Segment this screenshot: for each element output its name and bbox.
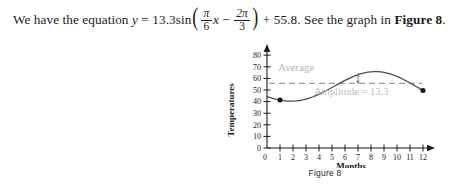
- y-tick-label: 20: [253, 121, 261, 130]
- y-tick-label: 30: [253, 109, 261, 118]
- x-tick-label: 4: [317, 153, 321, 162]
- data-point-marker: [421, 88, 426, 93]
- fraction-2pi-over-3: 2π3: [234, 8, 250, 33]
- y-tick-label: 0: [257, 144, 261, 153]
- equals-sign: =: [141, 12, 149, 27]
- y-tick-label: 80: [253, 51, 261, 60]
- sentence-period: .: [442, 12, 445, 27]
- fraction-numerator: 2π: [234, 8, 250, 20]
- sentence-tail: See the graph in: [304, 12, 391, 27]
- y-axis-arrowhead: [264, 44, 271, 52]
- fraction-pi-over-6: π6: [201, 8, 212, 33]
- x-tick-label: 9: [382, 153, 386, 162]
- x-tick-label: 8: [369, 153, 373, 162]
- x-tick-label: 12: [419, 153, 427, 162]
- x-tick-label: 1: [278, 153, 282, 162]
- fraction-numerator: π: [201, 8, 211, 20]
- vertical-shift-constant: 55.8.: [274, 12, 301, 27]
- sentence-lead: We have the equation: [13, 12, 129, 27]
- y-tick-label: 40: [253, 97, 261, 106]
- y-tick-label: 10: [253, 132, 261, 141]
- x-tick-label: 3: [304, 153, 308, 162]
- amplitude-coefficient: 13.3sin: [152, 12, 191, 27]
- fraction-denominator: 6: [201, 21, 211, 33]
- fraction-denominator: 3: [237, 21, 247, 33]
- x-tick-label: 2: [291, 153, 295, 162]
- figure-block: Temperatures 0 10 20 30 40 50 60: [225, 40, 455, 190]
- x-tick-label: 11: [406, 153, 414, 162]
- data-point-marker: [278, 98, 283, 103]
- figure-reference: Figure 8: [394, 12, 442, 27]
- minus-sign: −: [222, 12, 230, 27]
- figure-caption: Figure 8: [225, 168, 425, 178]
- x-tick-label: 5: [330, 153, 334, 162]
- x-axis-arrowhead: [427, 145, 435, 152]
- y-tick-label: 60: [253, 74, 261, 83]
- temperature-sine-chart: Temperatures 0 10 20 30 40 50 60: [225, 40, 440, 168]
- y-axis-tick-labels: 0 10 20 30 40 50 60 70 80: [253, 51, 261, 153]
- y-axis-label: Temperatures: [226, 83, 236, 137]
- x-tick-label: 0: [263, 153, 267, 162]
- y-tick-label: 50: [253, 86, 261, 95]
- average-label: Average: [278, 61, 315, 73]
- amplitude-label: Amplitude = 13.3: [314, 86, 388, 97]
- x-tick-label: 10: [393, 153, 401, 162]
- equation-sentence: We have the equation y = 13.3sin(π6x − 2…: [13, 8, 453, 33]
- y-tick-label: 70: [253, 63, 261, 72]
- x-axis-label: Months: [336, 161, 366, 168]
